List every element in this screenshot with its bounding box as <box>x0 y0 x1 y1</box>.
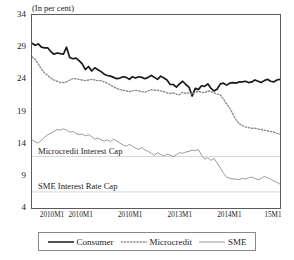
interest-rate-line-chart: (In per cent) 342924191494 Microcredit I… <box>0 0 294 260</box>
cap-label-sme: SME Interest Rate Cap <box>38 181 117 191</box>
data-series-group <box>32 43 280 184</box>
legend-label: Consumer <box>77 237 114 247</box>
legend-entry-consumer[interactable]: Consumer <box>48 237 114 247</box>
series-line-consumer <box>32 43 280 96</box>
cap-label-microcredit: Microcredit Interest Cap <box>38 146 122 156</box>
dotted-line-icon <box>121 238 147 246</box>
thin-line-icon <box>199 238 225 246</box>
series-line-microcredit <box>32 57 280 134</box>
y-axis-unit-label: (In per cent) <box>32 3 74 13</box>
legend-label: Microcredit <box>150 237 192 247</box>
chart-legend: ConsumerMicrocreditSME <box>38 232 256 251</box>
series-canvas <box>32 15 280 208</box>
solid-line-icon <box>48 238 74 246</box>
y-axis-tick-label: 34 <box>0 10 26 19</box>
x-axis-tick-label: 2014M1 <box>207 211 251 219</box>
y-axis-tick-label: 19 <box>0 107 26 116</box>
legend-entry-microcredit[interactable]: Microcredit <box>121 237 192 247</box>
y-axis-tick-label: 4 <box>0 203 26 212</box>
y-axis-tick-label: 29 <box>0 42 26 51</box>
y-axis-tick-label: 14 <box>0 139 26 148</box>
legend-label: SME <box>228 237 247 247</box>
x-axis-tick-label: 2010M1 <box>59 211 103 219</box>
x-axis-tick-label: 2013M1 <box>158 211 202 219</box>
legend-entry-sme[interactable]: SME <box>199 237 247 247</box>
y-axis-tick-label: 9 <box>0 171 26 180</box>
x-axis-tick-label: 2010M1 <box>108 211 152 219</box>
x-axis-tick-label: 15M1 <box>251 211 294 219</box>
y-axis-tick-label: 24 <box>0 74 26 83</box>
plot-area: Microcredit Interest CapSME Interest Rat… <box>31 14 281 209</box>
